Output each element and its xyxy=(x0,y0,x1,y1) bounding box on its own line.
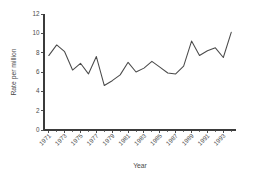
y-tick-label: 2 xyxy=(36,107,40,114)
x-tick-labels: 1971197319751977197919811983198519871989… xyxy=(37,132,227,147)
x-axis-title: Year xyxy=(133,162,147,169)
x-tick-label: 1975 xyxy=(69,132,84,147)
y-tick-label: 0 xyxy=(36,126,40,133)
x-tick-label: 1971 xyxy=(37,132,52,147)
y-tick-label: 4 xyxy=(36,87,40,94)
y-tick-label: 12 xyxy=(32,10,40,17)
x-tick-label: 1977 xyxy=(85,132,100,147)
chart-plot-area: 024681012 197119731975197719791981198319… xyxy=(0,0,264,182)
series-line xyxy=(49,32,231,85)
x-tick-label: 1989 xyxy=(180,132,195,147)
y-tick-label: 6 xyxy=(36,68,40,75)
y-axis-title: Rate per million xyxy=(10,48,18,95)
data-series-rate-per-million xyxy=(49,32,231,85)
line-chart-figure: 024681012 197119731975197719791981198319… xyxy=(0,0,264,182)
x-tick-label: 1979 xyxy=(101,132,116,147)
y-tick-label: 8 xyxy=(36,49,40,56)
y-tick-label: 10 xyxy=(32,29,40,36)
x-tick-label: 1993 xyxy=(212,132,227,147)
x-tick-label: 1991 xyxy=(196,132,211,147)
x-tick-label: 1981 xyxy=(117,132,132,147)
x-axis xyxy=(44,130,236,133)
x-tick-label: 1987 xyxy=(164,132,179,147)
y-tick-labels: 024681012 xyxy=(32,10,40,133)
x-tick-label: 1973 xyxy=(53,132,68,147)
x-tick-label: 1983 xyxy=(133,132,148,147)
x-tick-label: 1985 xyxy=(148,132,163,147)
y-axis xyxy=(41,14,44,130)
